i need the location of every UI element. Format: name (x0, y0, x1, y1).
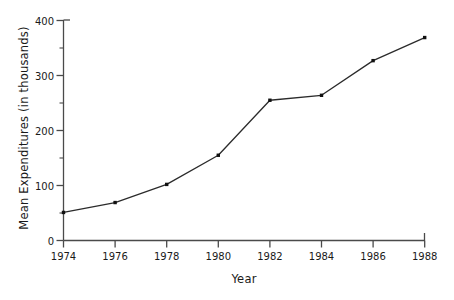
x-tick-label-1978: 1978 (154, 251, 179, 262)
y-tick-label-400: 400 (30, 15, 54, 26)
x-tick-label-1974: 1974 (51, 251, 76, 262)
data-point-1978 (165, 183, 168, 186)
y-tick-label-100: 100 (30, 180, 54, 191)
x-tick-label-1984: 1984 (309, 251, 334, 262)
data-point-1986 (371, 59, 374, 62)
x-tick-label-1982: 1982 (257, 251, 282, 262)
x-tick-label-1980: 1980 (206, 251, 231, 262)
data-point-1982 (268, 99, 271, 102)
data-point-1984 (320, 94, 323, 97)
y-tick-label-300: 300 (30, 70, 54, 81)
y-axis-title-text: Mean Expenditures (in thousands) (17, 26, 31, 229)
data-point-1988 (423, 36, 426, 39)
y-tick-label-0: 0 (30, 235, 54, 246)
x-axis-title-text: Year (62, 272, 426, 286)
x-tick-label-1986: 1986 (360, 251, 385, 262)
data-point-1976 (113, 201, 116, 204)
x-tick-label-1976: 1976 (102, 251, 127, 262)
x-tick-label-1988: 1988 (412, 251, 437, 262)
data-point-1974 (62, 211, 65, 214)
y-tick-label-200: 200 (30, 125, 54, 136)
chart-figure: Mean Expenditures (in thousands) Year 01… (0, 0, 454, 300)
data-point-1980 (217, 154, 220, 157)
